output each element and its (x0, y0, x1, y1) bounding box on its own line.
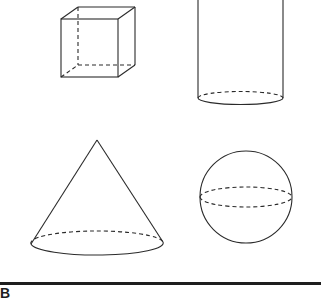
sphere-shape (200, 151, 292, 243)
cone-shape (31, 140, 163, 255)
cylinder-shape (198, 0, 283, 105)
divider-rule (0, 282, 321, 285)
cube-shape (61, 7, 135, 77)
partial-label: B (0, 286, 10, 300)
